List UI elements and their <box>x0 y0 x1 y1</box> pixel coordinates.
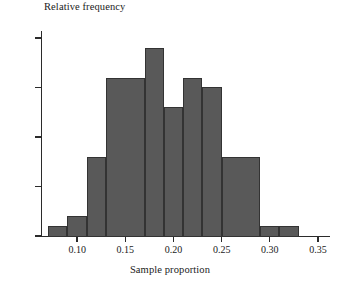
histogram-bar <box>260 226 279 237</box>
histogram-bar <box>145 48 164 237</box>
x-axis-title: Sample proportion <box>0 264 340 275</box>
histogram-bar <box>67 216 86 237</box>
histogram-bar <box>183 78 202 237</box>
histogram-bar <box>279 226 298 237</box>
histogram-bars <box>0 0 340 285</box>
histogram-bar <box>164 107 183 237</box>
histogram-bar <box>222 157 261 237</box>
histogram-bar <box>202 87 221 237</box>
histogram-bar <box>48 226 67 237</box>
histogram-bar <box>87 157 106 237</box>
histogram-bar <box>106 78 145 237</box>
histogram-figure: Relative frequency 0.00.50.100.150.20 0.… <box>0 0 340 285</box>
